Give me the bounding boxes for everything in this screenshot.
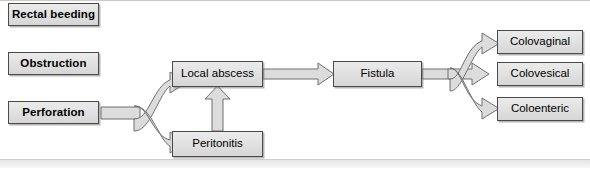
- node-perforation-label: Perforation: [22, 107, 84, 119]
- node-local-abscess-label: Local abscess: [181, 68, 254, 80]
- node-coloenteric[interactable]: Coloenteric: [497, 97, 583, 121]
- node-obstruction-label: Obstruction: [20, 58, 86, 70]
- diagram-canvas: Rectal beeding Obstruction Perforation L…: [0, 0, 590, 174]
- node-fistula[interactable]: Fistula: [333, 61, 422, 87]
- node-local-abscess[interactable]: Local abscess: [172, 61, 263, 87]
- node-colovesical-label: Colovesical: [511, 68, 570, 80]
- node-rectal-bleeding[interactable]: Rectal beeding: [8, 3, 99, 26]
- node-colovaginal-label: Colovaginal: [510, 36, 570, 48]
- arrow-peritonitis-local-abscess: [205, 86, 230, 131]
- arrow-fistula-split: [422, 33, 499, 119]
- node-colovesical[interactable]: Colovesical: [497, 62, 583, 86]
- arrow-local-abscess-fistula: [263, 63, 334, 85]
- node-peritonitis[interactable]: Peritonitis: [172, 131, 263, 157]
- node-colovaginal[interactable]: Colovaginal: [497, 30, 583, 54]
- node-obstruction[interactable]: Obstruction: [8, 52, 99, 75]
- node-peritonitis-label: Peritonitis: [192, 138, 243, 150]
- node-fistula-label: Fistula: [361, 68, 395, 80]
- node-coloenteric-label: Coloenteric: [511, 103, 569, 115]
- node-rectal-bleeding-label: Rectal beeding: [12, 9, 95, 21]
- node-perforation[interactable]: Perforation: [8, 101, 99, 124]
- connector-layer: [0, 0, 590, 174]
